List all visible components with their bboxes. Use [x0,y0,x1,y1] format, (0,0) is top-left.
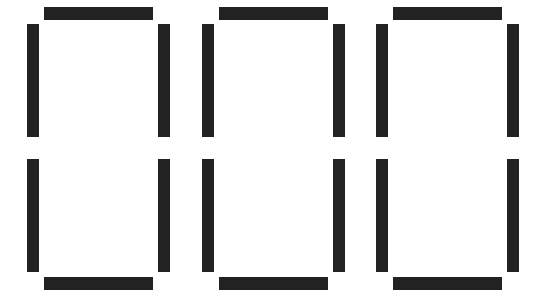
segment-a-top [44,7,153,20]
segment-f-upper-left [27,24,39,137]
segment-e-lower-left [27,159,39,272]
segment-a-top [219,7,328,20]
segment-e-lower-left [376,159,388,272]
segment-c-lower-right [507,159,519,272]
segment-f-upper-left [202,24,214,137]
segment-b-upper-right [333,24,345,137]
segment-d-bottom [44,277,153,290]
digit-2 [202,0,382,303]
segment-g-middle [44,142,153,155]
segment-d-bottom [393,277,502,290]
segment-c-lower-right [333,159,345,272]
segment-f-upper-left [376,24,388,137]
segment-c-lower-right [158,159,170,272]
digit-3 [376,0,544,303]
segment-b-upper-right [507,24,519,137]
segment-g-middle [219,142,328,155]
segment-b-upper-right [158,24,170,137]
segment-e-lower-left [202,159,214,272]
digit-1 [27,0,207,303]
segment-d-bottom [219,277,328,290]
segment-a-top [393,7,502,20]
segment-g-middle [393,142,502,155]
